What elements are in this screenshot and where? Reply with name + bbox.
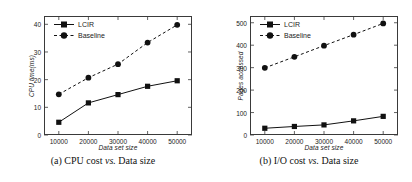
- x-axis-label-b: Data set size: [250, 144, 398, 151]
- caption-a: (a) CPU cost vs. Data size: [0, 155, 206, 166]
- legend-swatch-line-square-icon: [259, 20, 281, 29]
- y-axis-label-a: CPU time(ms): [28, 54, 35, 96]
- figure-row: 010203040 1000020000300004000050000 CPU …: [0, 0, 412, 182]
- y-tick-label: 100: [236, 109, 247, 116]
- legend-item-baseline-a: Baseline: [53, 31, 105, 40]
- legend-swatch-dashed-circle-icon: [259, 31, 281, 40]
- y-tick-label: 400: [236, 42, 247, 49]
- legend-swatch-line-square-icon: [53, 20, 75, 29]
- caption-b-suffix: Data size: [319, 155, 358, 166]
- legend-label-baseline-b: Baseline: [284, 31, 311, 40]
- figure-panel-a: 010203040 1000020000300004000050000 CPU …: [0, 0, 206, 182]
- caption-a-vs: vs.: [105, 155, 116, 166]
- caption-b-vs: vs.: [308, 155, 319, 166]
- legend-label-lcir-b: LCIR: [284, 20, 300, 29]
- caption-a-suffix: Data size: [116, 155, 155, 166]
- y-tick-label: 500: [236, 19, 247, 26]
- legend-label-baseline-a: Baseline: [78, 31, 105, 40]
- plot-area-a: 010203040 1000020000300004000050000 CPU …: [44, 16, 192, 135]
- legend-a: LCIR Baseline: [53, 20, 105, 40]
- legend-item-lcir-a: LCIR: [53, 20, 105, 29]
- figure-panel-b: 0100200300400500 10000200003000040000500…: [206, 0, 412, 182]
- y-tick-label: 10: [34, 104, 41, 111]
- plot-area-b: 0100200300400500 10000200003000040000500…: [250, 16, 398, 135]
- caption-a-prefix: (a) CPU cost: [51, 155, 105, 166]
- legend-label-lcir-a: LCIR: [78, 20, 94, 29]
- legend-swatch-dashed-circle-icon: [53, 31, 75, 40]
- y-tick-label: 0: [37, 132, 41, 139]
- legend-item-baseline-b: Baseline: [259, 31, 311, 40]
- legend-item-lcir-b: LCIR: [259, 20, 311, 29]
- caption-b-prefix: (b) I/O cost: [260, 155, 309, 166]
- y-tick-label: 40: [34, 21, 41, 28]
- y-axis-label-b: Pages accessed: [237, 51, 244, 100]
- x-axis-label-a: Data set size: [44, 144, 192, 151]
- y-tick-label: 30: [34, 48, 41, 55]
- legend-b: LCIR Baseline: [259, 20, 311, 40]
- y-tick-label: 0: [243, 132, 247, 139]
- caption-b: (b) I/O cost vs. Data size: [206, 155, 412, 166]
- y-tick-label: 20: [34, 76, 41, 83]
